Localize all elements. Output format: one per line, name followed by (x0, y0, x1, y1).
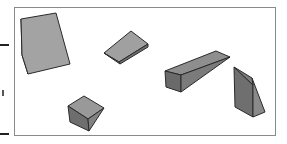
long-wedge-shape (165, 51, 230, 92)
cube-wedge-shape (68, 96, 104, 131)
upright-wedge-shape (234, 67, 265, 117)
shapes-illustration (0, 0, 287, 144)
flat-wedge-shape (104, 31, 148, 64)
tall-wedge-shape (21, 13, 70, 74)
